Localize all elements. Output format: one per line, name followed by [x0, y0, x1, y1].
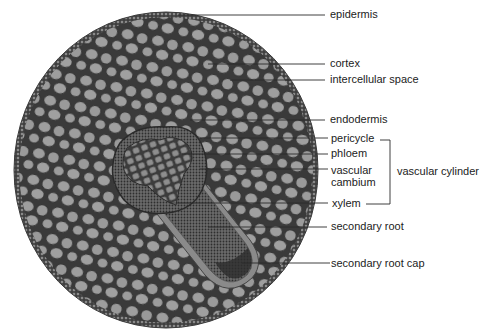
label-secondary-root: secondary root [331, 220, 404, 232]
label-secondary-root-cap: secondary root cap [331, 257, 425, 269]
label-phloem: phloem [331, 147, 367, 159]
label-vascular-cambium-line1: vascular [331, 164, 372, 176]
label-endodermis: endodermis [330, 113, 387, 125]
label-vascular-cylinder: vascular cylinder [397, 165, 479, 177]
label-xylem: xylem [332, 197, 361, 209]
label-cortex: cortex [330, 57, 360, 69]
label-pericycle: pericycle [331, 132, 374, 144]
label-epidermis: epidermis [330, 8, 378, 20]
vascular-cylinder [112, 127, 206, 214]
label-intercellular-space: intercellular space [330, 73, 419, 85]
label-vascular-cambium-line2: cambium [331, 176, 376, 188]
